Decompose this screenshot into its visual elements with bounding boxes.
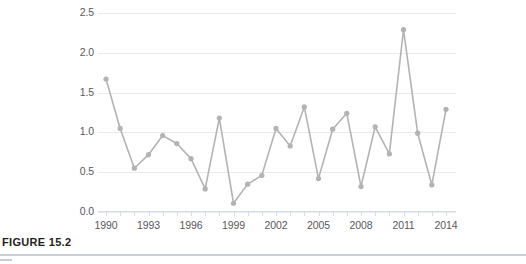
x-axis-tick: [361, 212, 362, 216]
x-axis-tick: [219, 212, 220, 216]
x-axis-tick-label: 1993: [137, 219, 160, 231]
y-axis-tick-label: 0.0: [60, 205, 94, 217]
x-axis-tick-label: 1999: [222, 219, 245, 231]
x-axis-tick: [432, 212, 433, 216]
x-axis-tick-label: 2008: [350, 219, 373, 231]
data-point: [415, 131, 420, 136]
data-point: [103, 76, 108, 81]
line-series: [98, 13, 456, 212]
y-axis-tick-label: 2.5: [60, 6, 94, 18]
x-axis-tick-label: 2014: [435, 219, 458, 231]
x-axis-tick: [177, 212, 178, 216]
x-axis-tick: [205, 212, 206, 216]
x-axis-tick: [304, 212, 305, 216]
data-point: [118, 126, 123, 131]
x-axis-tick: [191, 212, 192, 216]
data-point: [401, 27, 406, 32]
data-point: [273, 126, 278, 131]
data-point: [429, 182, 434, 187]
x-axis-tick: [106, 212, 107, 216]
data-point: [316, 176, 321, 181]
series-line: [106, 30, 446, 204]
x-axis-tick: [319, 212, 320, 216]
data-point: [188, 156, 193, 161]
caption-divider-stub: [0, 259, 12, 261]
data-point: [387, 151, 392, 156]
y-axis-tick-label: 2.0: [60, 46, 94, 58]
x-axis-tick: [248, 212, 249, 216]
data-point: [330, 127, 335, 132]
data-point: [174, 141, 179, 146]
data-point: [146, 152, 151, 157]
x-axis-tick-label: 1996: [180, 219, 203, 231]
x-axis-tick: [290, 212, 291, 216]
x-axis-tick: [389, 212, 390, 216]
data-point: [358, 184, 363, 189]
plot-area: [98, 13, 456, 212]
x-axis-tick: [120, 212, 121, 216]
data-point: [217, 115, 222, 120]
data-point: [160, 133, 165, 138]
data-point: [344, 111, 349, 116]
data-point: [302, 104, 307, 109]
x-axis-tick: [163, 212, 164, 216]
x-axis-tick: [375, 212, 376, 216]
x-axis-tick: [418, 212, 419, 216]
data-point: [203, 186, 208, 191]
data-point: [443, 107, 448, 112]
data-point: [245, 182, 250, 187]
gridline: [98, 212, 456, 213]
figure-caption: FIGURE 15.2: [0, 236, 526, 261]
figure-container: 0.00.51.01.52.02.5 199019931996199920022…: [0, 0, 526, 264]
caption-divider: [0, 254, 526, 256]
x-axis-tick-label: 2002: [265, 219, 288, 231]
y-axis-tick-label: 1.0: [60, 125, 94, 137]
x-axis-tick: [446, 212, 447, 216]
x-axis-labels: 199019931996199920022005200820112014: [0, 219, 526, 235]
y-axis-tick-label: 0.5: [60, 165, 94, 177]
x-axis-tick: [149, 212, 150, 216]
x-axis-tick: [333, 212, 334, 216]
x-axis-tick: [276, 212, 277, 216]
data-point: [132, 166, 137, 171]
x-axis-tick-label: 2011: [392, 219, 414, 231]
x-axis-tick-label: 2005: [307, 219, 330, 231]
data-point: [373, 124, 378, 129]
x-axis-tick: [347, 212, 348, 216]
x-axis-tick-label: 1990: [95, 219, 118, 231]
data-point: [259, 173, 264, 178]
x-axis-tick: [262, 212, 263, 216]
data-point: [288, 143, 293, 148]
data-point: [231, 201, 236, 206]
x-axis-tick: [234, 212, 235, 216]
x-axis-tick: [134, 212, 135, 216]
x-axis-tick: [404, 212, 405, 216]
figure-caption-label: FIGURE 15.2: [0, 236, 526, 248]
y-axis-tick-label: 1.5: [60, 86, 94, 98]
